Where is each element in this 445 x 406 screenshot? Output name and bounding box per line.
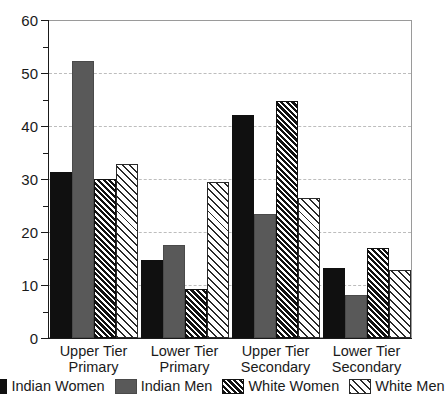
- x-axis-category-label: Lower TierSecondary: [307, 343, 427, 375]
- y-axis-tick-label: 50: [0, 66, 38, 81]
- legend-item-white-women[interactable]: White Women: [222, 379, 339, 394]
- legend-swatch-icon: [115, 379, 137, 394]
- bar-white-men-lower-tier-primary: [207, 182, 229, 338]
- legend-swatch-icon: [222, 379, 244, 394]
- y-axis-tick-label: 60: [0, 13, 38, 28]
- legend-label: White Men: [375, 379, 444, 394]
- bar-indian-women-upper-tier-secondary: [232, 115, 254, 338]
- bar-indian-women-upper-tier-primary: [50, 172, 72, 338]
- bar-white-men-upper-tier-primary: [116, 164, 138, 338]
- x-axis-label-line: Secondary: [307, 359, 427, 375]
- bars-layer: [48, 20, 412, 338]
- bar-indian-men-upper-tier-primary: [72, 61, 94, 338]
- legend-label: Indian Women: [11, 379, 104, 394]
- bar-white-men-lower-tier-secondary: [389, 270, 411, 338]
- bar-white-women-lower-tier-primary: [185, 289, 207, 338]
- bar-indian-men-lower-tier-secondary: [345, 295, 367, 338]
- legend-swatch-icon: [349, 379, 371, 394]
- x-axis-line: [48, 338, 412, 339]
- x-axis-label-line: Lower Tier: [307, 343, 427, 359]
- bar-white-men-upper-tier-secondary: [298, 198, 320, 338]
- y-axis-tick-label: 0: [0, 331, 38, 346]
- y-axis-tick-label: 30: [0, 172, 38, 187]
- bar-indian-men-lower-tier-primary: [163, 245, 185, 338]
- legend-item-indian-women[interactable]: Indian Women: [0, 379, 105, 394]
- legend: Indian WomenIndian MenWhite WomenWhite M…: [0, 379, 430, 394]
- bar-indian-women-lower-tier-primary: [141, 260, 163, 338]
- y-axis-tick-label: 10: [0, 278, 38, 293]
- legend-label: Indian Men: [141, 379, 213, 394]
- legend-item-indian-men[interactable]: Indian Men: [115, 379, 213, 394]
- bar-white-women-upper-tier-primary: [94, 179, 116, 338]
- y-axis-tick-label: 40: [0, 119, 38, 134]
- legend-label: White Women: [248, 379, 339, 394]
- bar-white-women-lower-tier-secondary: [367, 248, 389, 338]
- bar-indian-men-upper-tier-secondary: [254, 214, 276, 338]
- legend-swatch-icon: [0, 379, 7, 394]
- y-axis-tick-label: 20: [0, 225, 38, 240]
- legend-item-white-men[interactable]: White Men: [349, 379, 444, 394]
- bar-white-women-upper-tier-secondary: [276, 101, 298, 338]
- bar-indian-women-lower-tier-secondary: [323, 268, 345, 338]
